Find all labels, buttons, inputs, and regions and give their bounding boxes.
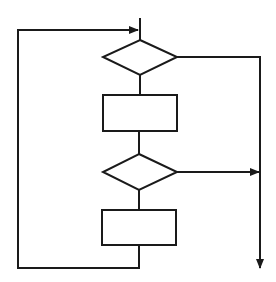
process-box-1 <box>103 95 177 131</box>
decision-diamond-1 <box>103 40 177 75</box>
process-box-2 <box>102 210 176 245</box>
decision-diamond-2 <box>103 154 177 190</box>
exit-connector <box>177 57 260 268</box>
flowchart-diagram <box>0 0 276 282</box>
